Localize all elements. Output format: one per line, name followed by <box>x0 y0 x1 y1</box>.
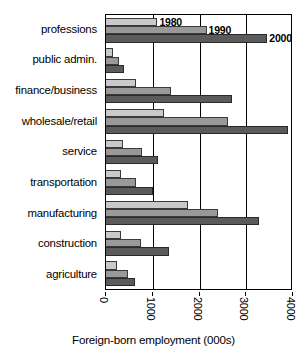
x-tick-mark <box>199 292 200 296</box>
category-label: wholesale/retail <box>0 106 101 137</box>
x-tick-mark <box>105 292 106 296</box>
category-label: manufacturing <box>0 198 101 229</box>
bar-row <box>106 117 291 125</box>
x-tick-mark <box>292 292 293 296</box>
bar <box>106 201 188 209</box>
bar <box>106 87 171 95</box>
bar-row <box>106 48 291 56</box>
bar <box>106 178 136 186</box>
x-tick-mark <box>245 292 246 296</box>
x-tick-label: 1000 <box>145 297 157 320</box>
bar <box>106 140 123 148</box>
bar-row <box>106 65 291 73</box>
bar <box>106 187 153 195</box>
bar <box>106 270 128 278</box>
bar <box>106 48 113 56</box>
bar-row <box>106 87 291 95</box>
bar-row <box>106 126 291 134</box>
x-tick-mark <box>152 292 153 296</box>
bar-group <box>106 76 291 106</box>
bar <box>106 18 157 26</box>
bar-row <box>106 148 291 156</box>
bar-row <box>106 261 291 269</box>
bar <box>106 95 232 103</box>
bar-row <box>106 278 291 286</box>
category-label: service <box>0 137 101 168</box>
category-label: agriculture <box>0 259 101 290</box>
x-tick-label: 3000 <box>238 297 250 320</box>
bar-row: 2000 <box>106 34 291 42</box>
x-tick-label: 2000 <box>192 297 204 320</box>
bar-row <box>106 178 291 186</box>
bar <box>106 278 135 286</box>
bar-row <box>106 57 291 65</box>
bar <box>106 79 136 87</box>
bar-group <box>106 228 291 258</box>
bar-group <box>106 45 291 75</box>
x-axis-title: Foreign-born employment (000s) <box>0 333 307 346</box>
bar-row <box>106 156 291 164</box>
x-tick-label: 0 <box>98 297 110 303</box>
bar-group <box>106 137 291 167</box>
bar <box>106 65 124 73</box>
x-axis-ticks: 01000200030004000 <box>105 292 292 330</box>
plot-area: 198019902000 <box>105 14 292 290</box>
series-label-2000: 2000 <box>267 32 292 44</box>
bar <box>106 148 142 156</box>
bar-group <box>106 167 291 197</box>
bar <box>106 26 207 34</box>
bar <box>106 261 117 269</box>
bar <box>106 239 141 247</box>
bar <box>106 34 267 42</box>
bar <box>106 117 228 125</box>
x-tick-label: 4000 <box>285 297 297 320</box>
bar-row <box>106 79 291 87</box>
bar-row <box>106 201 291 209</box>
bar-groups: 198019902000 <box>106 15 291 289</box>
bar-row <box>106 247 291 255</box>
bar <box>106 209 218 217</box>
bar <box>106 156 158 164</box>
bar-group <box>106 106 291 136</box>
bar-chart: professionspublic admin.finance/business… <box>0 0 307 351</box>
bar-row <box>106 239 291 247</box>
bar-row: 1990 <box>106 26 291 34</box>
bar-row <box>106 109 291 117</box>
bar-group <box>106 198 291 228</box>
bar-row <box>106 140 291 148</box>
category-label: professions <box>0 14 101 45</box>
bar-row <box>106 170 291 178</box>
bar <box>106 57 119 65</box>
bar-row <box>106 187 291 195</box>
bar-row: 1980 <box>106 18 291 26</box>
bar <box>106 217 259 225</box>
bar-row <box>106 231 291 239</box>
bar <box>106 109 164 117</box>
bar-row <box>106 217 291 225</box>
bar <box>106 247 169 255</box>
bar-row <box>106 209 291 217</box>
category-label: transportation <box>0 167 101 198</box>
bar-row <box>106 270 291 278</box>
bar-group: 198019902000 <box>106 15 291 45</box>
bar-row <box>106 95 291 103</box>
bar <box>106 126 288 134</box>
bar <box>106 231 121 239</box>
category-label: finance/business <box>0 75 101 106</box>
category-label: public admin. <box>0 45 101 76</box>
bar-group <box>106 259 291 289</box>
bar <box>106 170 121 178</box>
category-label: construction <box>0 229 101 260</box>
category-axis-labels: professionspublic admin.finance/business… <box>0 14 101 290</box>
